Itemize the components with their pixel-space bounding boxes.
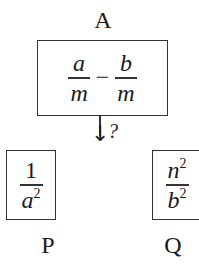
numerator: b (118, 51, 134, 75)
numerator: 1 (23, 158, 39, 182)
denominator: b2 (166, 188, 189, 212)
exponent: 2 (180, 186, 187, 201)
minus-sign: − (96, 64, 110, 91)
denominator: m (115, 81, 136, 105)
base: a (22, 187, 34, 213)
label-a: A (88, 8, 118, 32)
fraction-a-over-m: a m (68, 51, 89, 105)
box-p: 1 a2 (6, 150, 56, 220)
question-mark: ? (108, 120, 118, 142)
box-a: a m − b m (37, 40, 168, 116)
exponent: 2 (34, 186, 41, 201)
label-p: P (33, 233, 63, 257)
exponent: 2 (180, 156, 187, 171)
denominator: m (68, 81, 89, 105)
denominator: a2 (20, 188, 43, 212)
base: n (168, 157, 180, 183)
fraction-n-squared-over-b-squared: n2 b2 (166, 158, 189, 212)
fraction-1-over-a-squared: 1 a2 (20, 158, 43, 212)
base: b (168, 187, 180, 213)
box-q: n2 b2 (152, 150, 199, 220)
fraction-b-over-m: b m (115, 51, 136, 105)
numerator: a (71, 51, 87, 75)
fraction-bar (68, 77, 89, 79)
fraction-bar (115, 77, 136, 79)
numerator: n2 (166, 158, 189, 182)
arrow-down-icon: ↓ (91, 123, 109, 145)
label-q: Q (158, 233, 188, 257)
